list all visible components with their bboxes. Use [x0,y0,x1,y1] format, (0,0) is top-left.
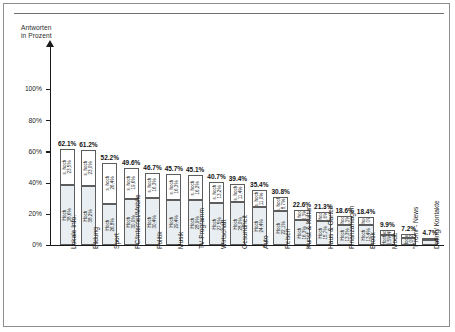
bar-segment-very-high[interactable]: s. hoch11,4% [230,184,245,202]
bar-segment-very-high[interactable]: s. hoch23,0% [81,150,96,186]
bar-segment-very-high-label: s. hoch23,5% [62,160,72,175]
x-category-label: Kunst & Kultur [305,207,312,249]
x-category-label: TV-Programm [198,208,205,249]
header-divider-rule [14,13,444,14]
bar-segment-very-high-label: s. hoch8,7% [276,197,286,211]
x-category-label: Musik [177,232,184,249]
y-tick-mark [46,151,51,152]
bar-segment-very-high-label: s. hoch19,6% [126,176,136,191]
y-tick-mark [46,183,51,184]
bar-segment-very-high-label: s. hoch11,0% [254,191,264,206]
bar-segment-high-label: Hoch24,4% [254,220,264,233]
bar-segment-very-high[interactable]: s. hoch13,2% [209,182,224,203]
x-category-label: Auto [262,236,269,250]
bar-segment-very-high-label: s. hoch16,3% [147,178,157,193]
y-tick-mark [46,245,51,246]
bar-segment-very-high-label: s. hoch13,2% [211,185,221,200]
x-category-label: Reisen [284,229,291,250]
bar-segment-very-high[interactable]: s. hoch26,4% [102,163,117,204]
y-tick-label: 100% [16,85,42,92]
bar-segment-very-high[interactable]: s. hoch16,2% [188,175,203,200]
y-tick-mark [46,120,51,121]
bar-segment-high-label: Hoch30,4% [147,215,157,228]
x-category-label: Finanzanlagen [348,206,355,249]
bar-segment-very-high-label: s. hoch23,0% [83,161,93,176]
bar-segment-very-high[interactable]: s. hoch8,7% [273,197,288,211]
y-tick-label: 0% [16,241,42,248]
bar-segment-high-label: Hoch26,8% [105,218,115,231]
y-axis-title-line1: Antworten [21,24,52,32]
x-category-label: Dating/ Kontakte [433,201,440,250]
chart-frame: Antworten in Prozent 100%80%60%40%20%0% … [3,3,450,327]
bar-segment-high-label: Hoch29,4% [169,216,179,229]
x-category-label: Haus & Garten [327,206,334,250]
bar-segment-very-high[interactable]: s. hoch11,0% [252,190,267,207]
y-tick-label: 20% [16,210,42,217]
bar-total-label: 61.2% [74,141,103,148]
bar-total-label: 18.4% [351,208,380,215]
y-tick-mark [46,89,51,90]
y-axis-line [50,45,51,246]
bar-segment-very-high[interactable]: s. hoch5,0% [358,217,373,225]
x-category-label: Wirtschaft [220,220,227,249]
x-category-label: PC/Internet/Mobile [134,195,141,250]
bar-segment-very-high-label: s. hoch26,4% [105,176,115,191]
bar-segment-very-high-label: s. hoch16,3% [169,179,179,194]
x-category-label: Lokale Info. [70,215,77,249]
x-category-label: Erotik [369,233,376,250]
bar-segment-very-high-label: s. hoch11,4% [233,185,243,200]
bar-total-label: 35.4% [245,181,274,188]
x-category-label: "Promi"- News [412,207,419,249]
x-category-label: Mode [391,233,398,250]
bar-segment-very-high[interactable]: s. hoch16,3% [145,173,160,198]
y-tick-label: 80% [16,117,42,124]
bar-segment-high-label: Hoch38,2% [83,209,93,222]
bar-segment-very-high[interactable]: s. hoch16,3% [166,174,181,199]
y-tick-mark [46,214,51,215]
x-category-label: Politik [156,232,163,250]
x-category-label: Bildung [92,227,99,249]
x-category-label: Gesundheit [241,216,248,250]
y-tick-label: 60% [16,148,42,155]
y-tick-label: 40% [16,179,42,186]
y-axis-title: Antworten in Prozent [21,24,52,40]
bar-total-label: 30.8% [266,188,295,195]
x-category-label: Sport [113,234,120,250]
bar-segment-very-high-label: s. hoch5,0% [361,217,371,225]
bar-total-label: 4.7% [415,229,444,236]
bar-segment-very-high[interactable]: s. hoch23,5% [60,149,75,186]
bar-segment-very-high-label: s. hoch16,2% [190,180,200,195]
